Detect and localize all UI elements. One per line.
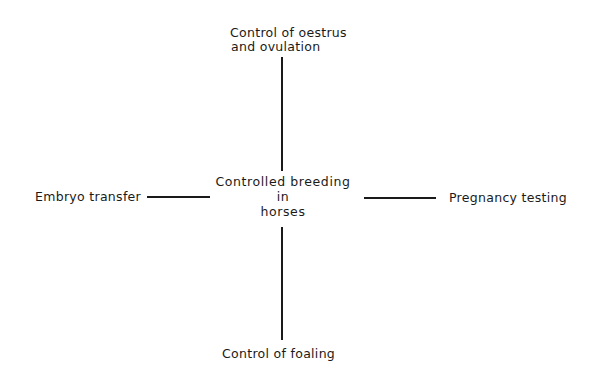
connector-bottom <box>281 227 283 340</box>
center-line-2: in <box>200 189 366 204</box>
node-top-control-of-oestrus: Control of oestrus and ovulation <box>230 26 347 54</box>
node-bottom-control-of-foaling: Control of foaling <box>222 347 335 361</box>
node-top-line-2: and ovulation <box>230 40 347 54</box>
connector-right <box>364 197 436 199</box>
node-left-embryo-transfer: Embryo transfer <box>35 190 141 204</box>
node-top-line-1: Control of oestrus <box>230 26 347 40</box>
center-line-3: horses <box>200 204 366 219</box>
connector-left <box>147 196 210 198</box>
node-right-pregnancy-testing: Pregnancy testing <box>449 191 567 205</box>
center-line-1: Controlled breeding <box>200 174 366 189</box>
connector-top <box>281 57 283 171</box>
center-node-controlled-breeding: Controlled breeding in horses <box>200 174 366 219</box>
